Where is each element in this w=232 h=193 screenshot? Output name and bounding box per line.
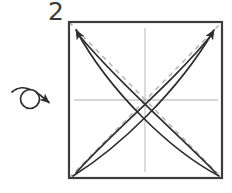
- turn-over-symbol: [12, 88, 49, 109]
- diagram-canvas: [0, 0, 232, 193]
- curved-arrows-group: [73, 30, 219, 176]
- origami-diagram: 2: [0, 0, 232, 193]
- turn-over-arrow-head-stroke: [37, 93, 50, 103]
